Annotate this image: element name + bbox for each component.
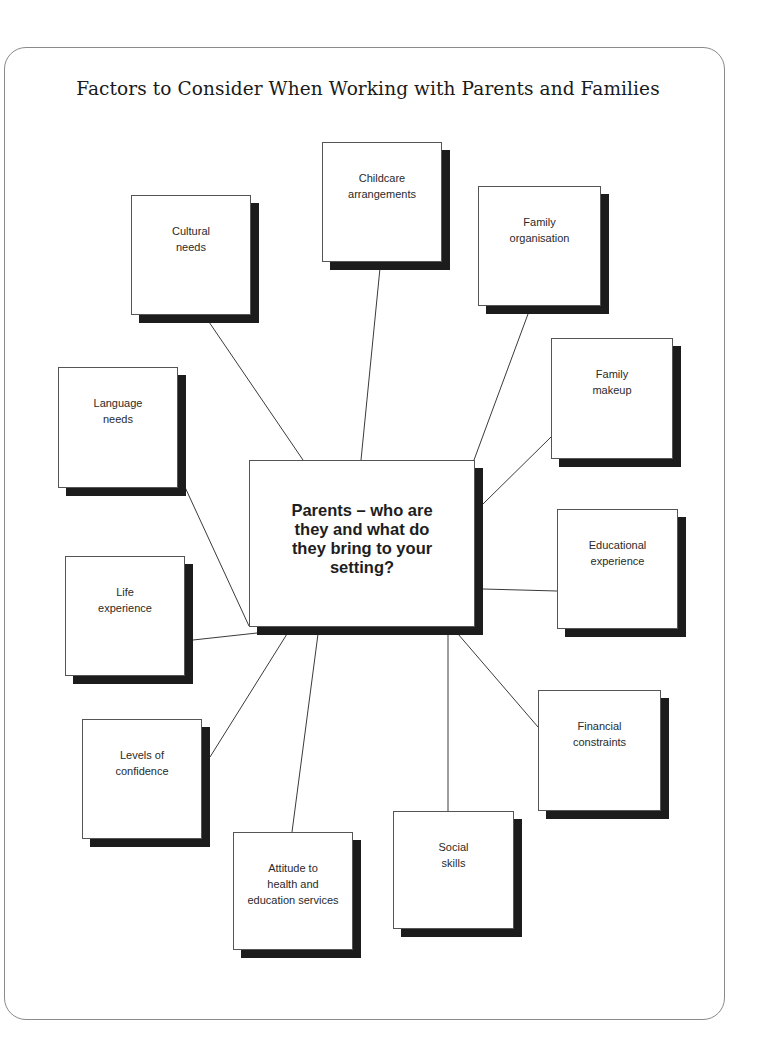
- factor-box-levels-of-confidence: Levels of confidence: [82, 719, 202, 839]
- factor-label: Life experience: [66, 584, 184, 616]
- connector-cultural-needs: [209, 322, 303, 460]
- factor-label: Social skills: [394, 839, 513, 871]
- factor-box-family-makeup: Family makeup: [551, 338, 673, 459]
- central-question-box: Parents – who are they and what do they …: [249, 460, 475, 627]
- connector-family-organisation: [474, 314, 528, 460]
- connector-attitude-to-services: [292, 634, 318, 832]
- central-question-label: Parents – who are they and what do they …: [287, 501, 437, 577]
- factor-box-attitude-to-services: Attitude to health and education service…: [233, 832, 353, 950]
- factor-label: Cultural needs: [132, 223, 250, 255]
- factor-label: Family makeup: [552, 366, 672, 398]
- factor-label: Levels of confidence: [83, 747, 201, 779]
- factor-box-family-organisation: Family organisation: [478, 186, 601, 306]
- connector-language-needs: [184, 485, 249, 626]
- factor-label: Educational experience: [558, 537, 677, 569]
- factor-box-financial-constraints: Financial constraints: [538, 690, 661, 811]
- factor-box-life-experience: Life experience: [65, 556, 185, 676]
- factor-box-childcare-arrangements: Childcare arrangements: [322, 142, 442, 262]
- connector-family-makeup: [482, 437, 551, 505]
- connector-life-experience: [193, 633, 257, 640]
- factor-label: Childcare arrangements: [323, 170, 441, 202]
- factor-label: Financial constraints: [539, 718, 660, 750]
- connector-childcare-arrangements: [361, 268, 380, 460]
- connector-financial-constraints: [458, 634, 538, 727]
- factor-box-educational-experience: Educational experience: [557, 509, 678, 629]
- factor-label: Attitude to health and education service…: [234, 860, 352, 908]
- connector-educational-experience: [483, 589, 557, 591]
- factor-box-social-skills: Social skills: [393, 811, 514, 929]
- factor-label: Language needs: [59, 395, 177, 427]
- factor-box-cultural-needs: Cultural needs: [131, 195, 251, 315]
- factor-label: Family organisation: [479, 214, 600, 246]
- connector-levels-of-confidence: [210, 634, 287, 757]
- factor-box-language-needs: Language needs: [58, 367, 178, 488]
